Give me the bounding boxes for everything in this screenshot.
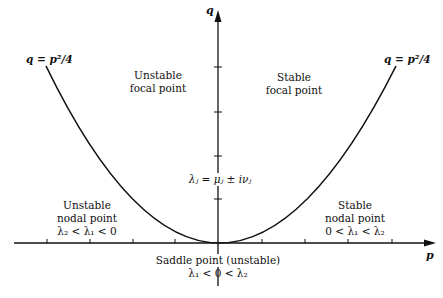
q-axis-label: q — [206, 4, 214, 17]
curve-equation-right: q = p²/4 — [384, 53, 431, 66]
region-label: Stable — [312, 199, 398, 212]
region-label: focal point — [254, 84, 334, 97]
region-label: nodal point — [47, 212, 127, 225]
region-stable-nodal: Stable nodal point 0 < λ₁ < λ₂ — [312, 199, 398, 238]
region-label: Saddle point (unstable) — [148, 254, 288, 267]
region-stable-focal: Stable focal point — [254, 71, 334, 97]
curve-equation-left: q = p²/4 — [26, 53, 73, 66]
region-label: nodal point — [312, 212, 398, 225]
eigenvalue-expression: λⱼ = μⱼ ± iνⱼ — [172, 173, 268, 186]
region-label: Unstable — [47, 199, 127, 212]
region-unstable-focal: Unstable focal point — [118, 69, 198, 95]
region-label: focal point — [118, 82, 198, 95]
region-unstable-nodal: Unstable nodal point λ₂ < λ₁ < 0 — [47, 199, 127, 238]
q-axis-arrow-icon — [215, 10, 222, 22]
p-axis-label: p — [426, 249, 434, 262]
region-condition: 0 < λ₁ < λ₂ — [312, 225, 398, 238]
region-condition: λ₂ < λ₁ < 0 — [47, 225, 127, 238]
region-label: Stable — [254, 71, 334, 84]
region-label: Unstable — [118, 69, 198, 82]
region-saddle: Saddle point (unstable) λ₁ < 0 < λ₂ — [148, 254, 288, 280]
region-condition: λ₁ < 0 < λ₂ — [148, 267, 288, 280]
p-axis-arrow-icon — [424, 240, 436, 247]
